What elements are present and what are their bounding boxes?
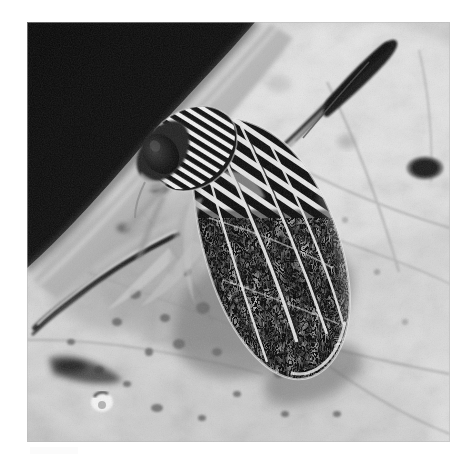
film-grain — [27, 22, 450, 442]
photograph — [27, 22, 450, 442]
page-root — [0, 0, 471, 460]
caption-smudge — [30, 447, 78, 454]
photograph-canvas — [27, 22, 450, 442]
